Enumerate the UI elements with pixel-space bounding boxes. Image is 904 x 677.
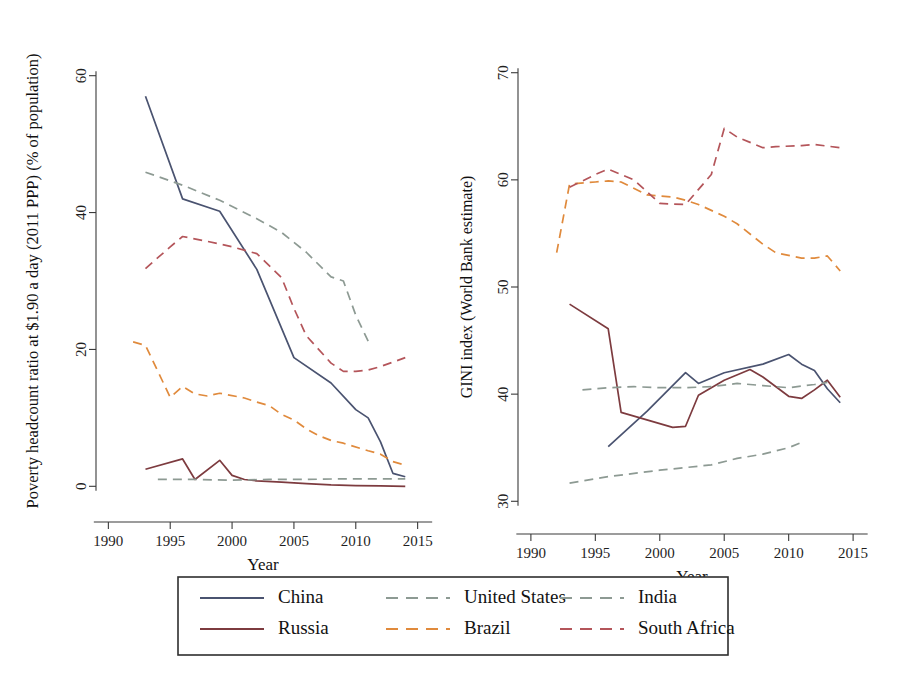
- x-tick-label-poverty-2005: 2005: [279, 533, 309, 549]
- legend-label-brazil: Brazil: [464, 617, 510, 638]
- legend-label-russia: Russia: [278, 617, 329, 638]
- y-tick-label-poverty-0: 0: [73, 483, 89, 491]
- panel-gini: 3040506070199019952000200520102015YearGI…: [458, 65, 868, 586]
- y-axis-title-gini: GINI index (World Bank estimate): [458, 176, 476, 399]
- y-tick-label-poverty-40: 40: [73, 205, 89, 220]
- x-tick-label-poverty-2000: 2000: [217, 533, 247, 549]
- series-line-gini-united-states: [582, 382, 827, 390]
- x-tick-label-poverty-2015: 2015: [403, 533, 433, 549]
- legend-label-china: China: [278, 586, 324, 607]
- figure-container: 0204060199019952000200520102015YearPover…: [0, 0, 904, 677]
- series-line-gini-china: [608, 355, 840, 447]
- x-tick-label-poverty-1995: 1995: [155, 533, 185, 549]
- legend-label-india: India: [638, 586, 678, 607]
- series-line-gini-russia: [570, 304, 841, 427]
- y-tick-label-gini-70: 70: [495, 65, 511, 80]
- series-line-gini-south-africa: [570, 128, 841, 204]
- series-line-gini-brazil: [557, 181, 841, 271]
- y-tick-label-poverty-20: 20: [73, 342, 89, 357]
- legend-label-south-africa: South Africa: [638, 617, 735, 638]
- legend-label-united-states: United States: [464, 586, 566, 607]
- y-tick-label-poverty-60: 60: [73, 68, 89, 83]
- series-line-poverty-russia: [145, 459, 405, 486]
- x-tick-label-gini-2005: 2005: [709, 545, 739, 561]
- x-tick-label-gini-2015: 2015: [838, 545, 868, 561]
- x-tick-label-gini-1990: 1990: [516, 545, 546, 561]
- y-tick-label-gini-30: 30: [495, 494, 511, 509]
- y-tick-label-gini-60: 60: [495, 172, 511, 187]
- panel-poverty: 0204060199019952000200520102015YearPover…: [23, 54, 433, 574]
- y-tick-label-gini-50: 50: [495, 280, 511, 295]
- series-line-poverty-south-africa: [145, 237, 405, 372]
- series-line-poverty-china: [145, 96, 405, 477]
- x-tick-label-gini-1995: 1995: [580, 545, 610, 561]
- series-line-poverty-brazil: [133, 342, 405, 465]
- x-tick-label-gini-2000: 2000: [645, 545, 675, 561]
- x-tick-label-gini-2010: 2010: [774, 545, 804, 561]
- x-axis-title-poverty: Year: [247, 555, 279, 574]
- y-axis-title-poverty: Poverty headcount ratio at $1.90 a day (…: [23, 54, 42, 509]
- series-line-poverty-india: [145, 172, 368, 341]
- chart-canvas: 0204060199019952000200520102015YearPover…: [0, 0, 904, 677]
- x-tick-label-poverty-2010: 2010: [341, 533, 371, 549]
- chart-legend: ChinaRussiaUnited StatesBrazilIndiaSouth…: [178, 577, 735, 655]
- x-tick-label-poverty-1990: 1990: [93, 533, 123, 549]
- series-line-poverty-united-states: [158, 479, 405, 480]
- y-tick-label-gini-40: 40: [495, 387, 511, 402]
- series-line-gini-india: [570, 442, 802, 483]
